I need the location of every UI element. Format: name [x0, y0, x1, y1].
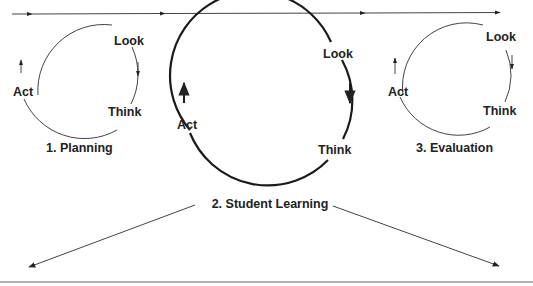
cycle-arc: [24, 99, 117, 139]
cycle-arc: [400, 97, 490, 135]
look-think-act-diagram: Look Think Act 1. Planning Look Think Ac…: [0, 0, 533, 286]
node-think: Think: [483, 104, 516, 118]
cycle-student-learning: Look Think Act 2. Student Learning: [170, 0, 353, 211]
node-look: Look: [114, 34, 144, 48]
node-look: Look: [323, 47, 353, 61]
node-think: Think: [318, 143, 351, 157]
cycle-title: 2. Student Learning: [212, 197, 329, 211]
cycle-arc: [38, 24, 112, 95]
branch-arrow-left: [29, 205, 195, 267]
cycle-planning: Look Think Act 1. Planning: [13, 24, 144, 155]
node-think: Think: [108, 105, 141, 119]
timeline-arrow: [12, 13, 500, 15]
cycle-arc: [131, 47, 138, 104]
cycle-title: 3. Evaluation: [416, 141, 493, 155]
node-act: Act: [388, 85, 409, 99]
node-act: Act: [13, 85, 34, 99]
cycle-arc: [402, 23, 483, 95]
node-act: Act: [177, 118, 198, 132]
cycle-arc: [190, 133, 328, 185]
cycle-evaluation: Look Think Act 3. Evaluation: [388, 23, 516, 155]
branch-arrow-right: [333, 206, 499, 266]
cycle-arc: [505, 50, 511, 102]
cycle-arc: [170, 0, 331, 130]
cycle-title: 1. Planning: [46, 141, 113, 155]
node-look: Look: [486, 30, 516, 44]
